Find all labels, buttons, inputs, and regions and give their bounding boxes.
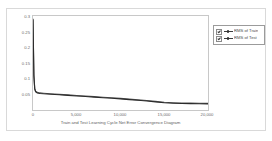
x-axis-tick-15000: 15,000 — [158, 113, 171, 117]
line-chart-svg — [33, 16, 208, 110]
x-axis-tick-5000: 5,000 — [71, 113, 81, 117]
checkbox-icon[interactable] — [216, 29, 222, 35]
y-axis-tick-0.1: 0.1 — [7, 77, 30, 81]
x-axis-title: Train and Test Learning Cycle Net Error … — [32, 121, 209, 126]
legend-label: RMS of Test — [234, 36, 257, 40]
chart-card: 0.3 0.25 0.2 0.15 0.1 0.05 0 5,000 10,00… — [6, 8, 266, 131]
y-axis-tick-0.15: 0.15 — [7, 62, 30, 66]
line-marker-icon — [224, 29, 233, 34]
series-line-rms-of-test — [33, 19, 208, 103]
series-paths — [33, 19, 208, 104]
line-marker-icon — [224, 36, 233, 41]
x-axis-tick-20000: 20,000 — [201, 113, 214, 117]
x-axis-tick-10000: 10,000 — [114, 113, 127, 117]
y-axis-tick-0.05: 0.05 — [7, 93, 30, 97]
chart-legend: RMS of Train RMS of Test — [213, 25, 265, 45]
checkbox-icon[interactable] — [216, 36, 222, 42]
x-axis-tick-0: 0 — [32, 113, 34, 117]
legend-label: RMS of Train — [234, 29, 258, 33]
series-line-rms-of-train — [33, 20, 208, 104]
legend-item-rms-of-test[interactable]: RMS of Test — [216, 35, 262, 42]
y-axis-tick-0.3: 0.3 — [7, 15, 30, 19]
plot-area — [32, 15, 209, 111]
legend-item-rms-of-train[interactable]: RMS of Train — [216, 28, 262, 35]
y-axis-tick-0.25: 0.25 — [7, 31, 30, 35]
y-axis-tick-0.2: 0.2 — [7, 46, 30, 50]
